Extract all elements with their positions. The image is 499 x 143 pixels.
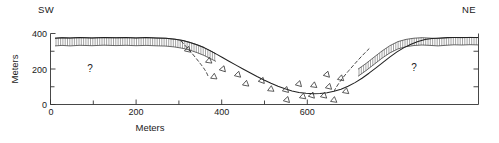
cross-section-plot: 400 200 0 0 200 400 600 Meters Meters (0, 0, 499, 143)
y-axis-ticks (51, 34, 56, 105)
talus-triangle (234, 71, 241, 78)
hachure-right-bottom (358, 45, 478, 77)
query-marker-left: ? (87, 63, 93, 74)
talus-triangle (242, 80, 249, 86)
talus-triangle-markers (184, 46, 349, 103)
talus-triangle (219, 65, 227, 72)
hachure-left-ticks (56, 38, 215, 61)
talus-triangle (323, 70, 331, 77)
x-tick-label-600: 600 (300, 107, 315, 117)
y-axis-title: Meters (9, 54, 20, 83)
x-axis-ticks (51, 100, 308, 105)
talus-triangle (295, 80, 303, 87)
talus-triangle (331, 96, 338, 102)
hachure-band-right (358, 37, 478, 76)
talus-triangle (211, 73, 218, 79)
y-axis-tick-labels: 400 200 0 (32, 29, 47, 110)
x-tick-label-0: 0 (48, 107, 53, 117)
talus-triangle (206, 57, 213, 63)
y-axis-right-ticks (474, 51, 479, 87)
talus-triangle (308, 91, 316, 98)
hachure-right-ticks (359, 37, 476, 75)
talus-triangle (283, 96, 291, 103)
query-marker-right: ? (411, 62, 417, 73)
cross-section-figure: SW NE (0, 0, 499, 143)
y-tick-label-400: 400 (32, 29, 47, 39)
talus-triangle (325, 83, 332, 90)
hachure-band-left (55, 38, 216, 62)
talus-triangle (311, 81, 318, 87)
y-tick-label-0: 0 (42, 100, 47, 110)
x-tick-label-200: 200 (129, 107, 144, 117)
talus-triangle (268, 85, 275, 91)
y-tick-label-200: 200 (32, 65, 47, 75)
x-axis-tick-labels: 0 200 400 600 (48, 107, 314, 117)
x-axis-title: Meters (135, 122, 164, 133)
x-tick-label-400: 400 (214, 107, 229, 117)
